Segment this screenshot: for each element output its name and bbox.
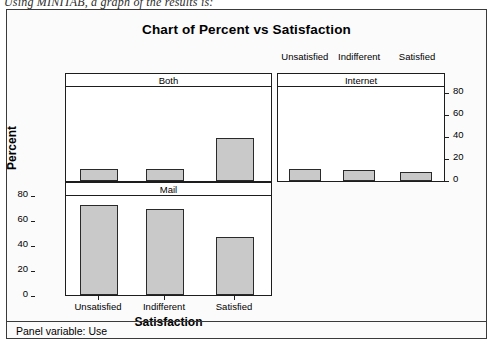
footer-divider bbox=[7, 321, 486, 322]
column-header-indifferent: Indifferent bbox=[338, 51, 380, 62]
column-headers: Unsatisfied Indifferent Satisfied bbox=[265, 51, 446, 65]
bar-both-indifferent bbox=[146, 169, 184, 181]
y-axis-right: 80 60 40 20 0 bbox=[445, 10, 475, 340]
bar-mail-satisfied bbox=[216, 237, 254, 295]
panel-label-internet: Internet bbox=[277, 73, 445, 87]
panel-label-mail: Mail bbox=[65, 182, 272, 196]
x-tick-label-satisfied: Satisfied bbox=[216, 301, 252, 312]
chart-title: Chart of Percent vs Satisfaction bbox=[7, 22, 486, 37]
y-axis-left: 80 60 40 20 0 bbox=[35, 10, 65, 340]
bar-internet-unsatisfied bbox=[289, 169, 321, 181]
y-axis-title: Percent bbox=[5, 126, 19, 170]
bar-mail-indifferent bbox=[146, 209, 184, 295]
panel-variable-note: Panel variable: Use bbox=[16, 325, 107, 337]
panel-label-both: Both bbox=[65, 73, 272, 87]
bar-both-satisfied bbox=[216, 138, 254, 181]
panel-internet bbox=[277, 86, 445, 182]
panel-both bbox=[65, 86, 272, 182]
bar-internet-indifferent bbox=[343, 170, 375, 181]
column-header-satisfied: Satisfied bbox=[399, 51, 435, 62]
column-header-unsatisfied: Unsatisfied bbox=[281, 51, 328, 62]
panel-mail bbox=[65, 195, 272, 296]
chart-figure: Chart of Percent vs Satisfaction Unsatis… bbox=[6, 9, 487, 339]
bar-mail-unsatisfied bbox=[80, 205, 118, 295]
bar-both-unsatisfied bbox=[80, 169, 118, 181]
x-tick-label-unsatisfied: Unsatisfied bbox=[75, 301, 122, 312]
bar-internet-satisfied bbox=[400, 172, 432, 181]
x-tick-label-indifferent: Indifferent bbox=[143, 301, 185, 312]
x-axis-labels: Unsatisfied Indifferent Satisfied bbox=[65, 301, 272, 315]
